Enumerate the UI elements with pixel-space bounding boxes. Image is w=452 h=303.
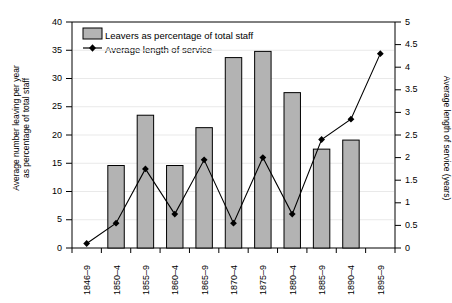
x-axis-tick-label: 1865–9	[200, 265, 210, 295]
x-axis-tick-label: 1875–9	[258, 265, 268, 295]
y-axis-right-tick-label: 0	[405, 244, 410, 253]
x-axis-tick-label: 1846–9	[82, 265, 92, 295]
y-axis-right-tick-label: 1.5	[405, 176, 418, 185]
x-axis-tick-label: 1885–9	[317, 265, 327, 295]
y-axis-left-tick-label: 30	[0, 74, 62, 83]
y-axis-left-tick-label: 20	[0, 131, 62, 140]
bar	[167, 166, 183, 248]
x-axis-tick-label: 1895–9	[376, 265, 386, 295]
x-axis-tick-label: 1870–4	[229, 265, 239, 295]
x-axis-tick-label: 1850–4	[112, 265, 122, 295]
line-marker	[83, 240, 90, 247]
bar	[108, 166, 124, 248]
bar-series	[108, 51, 359, 248]
y-axis-left-tick-label: 15	[0, 159, 62, 168]
line-marker	[348, 116, 355, 123]
bar	[137, 115, 153, 248]
y-axis-left-tick-label: 5	[0, 215, 62, 224]
y-axis-left-tick-label: 40	[0, 18, 62, 27]
y-axis-right-tick-label: 1	[405, 198, 410, 207]
x-axis-tick-label: 1890–4	[346, 265, 356, 295]
y-axis-right-tick-label: 4.5	[405, 40, 418, 49]
y-axis-right-tick-label: 2	[405, 153, 410, 162]
y-axis-right-tick-label: 4	[405, 63, 410, 72]
bar	[255, 51, 271, 248]
y-axis-left-tick-label: 0	[0, 244, 62, 253]
legend-marks	[83, 28, 102, 52]
y-axis-right-tick-label: 5	[405, 18, 410, 27]
bar	[225, 58, 241, 248]
y-axis-left-ticks	[66, 22, 72, 248]
y-axis-right-tick-label: 3.5	[405, 85, 418, 94]
bar	[313, 149, 329, 248]
y-axis-left-tick-label: 25	[0, 102, 62, 111]
x-axis-tick-label: 1855–9	[141, 265, 151, 295]
bar	[343, 140, 359, 248]
bar	[284, 93, 300, 248]
bar	[196, 128, 212, 248]
line-marker	[318, 136, 325, 143]
legend-swatch-bar	[83, 28, 102, 39]
line-marker	[377, 50, 384, 57]
y-axis-right-tick-label: 2.5	[405, 131, 418, 140]
y-axis-right-tick-label: 0.5	[405, 221, 418, 230]
x-axis-tick-label: 1860–4	[170, 265, 180, 295]
y-axis-right-tick-label: 3	[405, 108, 410, 117]
x-axis-ticks	[72, 248, 395, 253]
y-axis-right-ticks	[395, 22, 401, 248]
y-axis-left-tick-label: 10	[0, 187, 62, 196]
y-axis-left-tick-label: 35	[0, 46, 62, 55]
x-axis-tick-label: 1880–4	[288, 265, 298, 295]
